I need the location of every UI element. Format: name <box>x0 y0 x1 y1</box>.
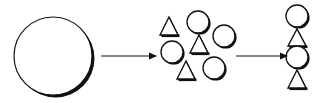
stage-scattered-parts <box>160 11 237 81</box>
stage-ordered-stack <box>286 5 310 90</box>
circle-shape <box>161 41 185 65</box>
circle-shape <box>286 5 310 29</box>
triangle-shape <box>177 61 197 81</box>
circle-shape <box>14 17 95 98</box>
stage-whole <box>14 17 95 98</box>
diagram-canvas <box>0 0 331 103</box>
process-diagram <box>0 0 331 103</box>
circle-shape <box>187 11 211 35</box>
triangle-shape <box>288 29 308 48</box>
circle-shape <box>286 46 310 70</box>
triangle-shape <box>160 17 180 37</box>
stages-layer <box>14 5 310 98</box>
circle-shape <box>203 57 227 81</box>
triangle-shape <box>288 70 308 90</box>
circle-shape <box>213 25 237 49</box>
triangle-shape <box>190 35 210 55</box>
